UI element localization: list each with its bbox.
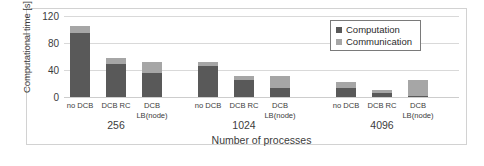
- x-axis-tick-label-line-1: no DCB: [195, 101, 222, 110]
- legend-item-computation[interactable]: Computation: [336, 24, 412, 35]
- stacked-bar[interactable]: [70, 26, 90, 97]
- bar-segment-computation: [142, 73, 162, 97]
- bar-segment-computation: [372, 93, 392, 97]
- x-axis-tick-label-line-1: DCB RC: [101, 101, 130, 110]
- bar-group-1024: no DCBDCB RCDCBLB(node)1024: [198, 16, 310, 97]
- bar-slot: DCBLB(node): [270, 16, 290, 97]
- x-axis-tick-label: DCB RC: [224, 101, 264, 111]
- y-axis-title-line-1: Computational: [21, 33, 32, 93]
- bar-slot: DCB RC: [106, 16, 126, 97]
- stacked-bar[interactable]: [234, 76, 254, 97]
- legend-swatch-icon: [336, 39, 342, 45]
- stacked-bar[interactable]: [142, 62, 162, 97]
- x-axis-tick-label: no DCB: [326, 101, 366, 111]
- stacked-bar[interactable]: [106, 58, 126, 97]
- bar-segment-computation: [106, 64, 126, 97]
- bar-slot: no DCB: [70, 16, 90, 97]
- x-axis-tick-label-line-1: DCB: [144, 101, 160, 110]
- bar-segment-communication: [70, 26, 90, 33]
- stacked-bar[interactable]: [198, 62, 218, 97]
- bar-segment-computation: [336, 88, 356, 97]
- x-axis-tick-label: no DCB: [188, 101, 228, 111]
- y-axis-tick-label-40: 40: [48, 65, 59, 76]
- x-axis-tick-label: DCBLB(node): [260, 101, 300, 120]
- stacked-bar[interactable]: [270, 76, 290, 97]
- legend-item-label: Computation: [346, 24, 400, 35]
- bar-slot: no DCB: [198, 16, 218, 97]
- stacked-bar[interactable]: [336, 82, 356, 97]
- bar-slot: DCB RC: [234, 16, 254, 97]
- bar-segment-computation: [408, 96, 428, 97]
- x-axis-tick-label: DCB RC: [96, 101, 136, 111]
- x-axis-title: Number of processes: [64, 134, 459, 146]
- bar-segment-communication: [408, 80, 428, 96]
- x-axis-tick-label-line-1: no DCB: [333, 101, 360, 110]
- chart-legend: ComputationCommunication: [330, 20, 421, 51]
- stacked-bar[interactable]: [372, 90, 392, 97]
- group-label-1024: 1024: [198, 119, 290, 131]
- x-axis-tick-label: DCB RC: [362, 101, 402, 111]
- bar-segment-computation: [70, 33, 90, 97]
- y-axis-tick-label-0: 0: [53, 92, 59, 103]
- x-axis-tick-label-line-1: DCB RC: [367, 101, 396, 110]
- bar-segment-communication: [270, 76, 290, 88]
- bar-segment-computation: [234, 80, 254, 97]
- bar-segment-computation: [198, 66, 218, 97]
- gridline-0: [64, 97, 459, 98]
- y-axis-tick-label-120: 120: [42, 11, 59, 22]
- chart-figure: Computational time [s] 04080120 no DCBDC…: [0, 0, 484, 166]
- bar-segment-computation: [270, 88, 290, 97]
- x-axis-tick-label-line-1: DCB: [410, 101, 426, 110]
- bar-slot: DCBLB(node): [142, 16, 162, 97]
- bar-segment-communication: [142, 62, 162, 73]
- legend-item-label: Communication: [346, 36, 412, 47]
- bar-group-256: no DCBDCB RCDCBLB(node)256: [70, 16, 182, 97]
- x-axis-tick-label-line-1: DCB RC: [229, 101, 258, 110]
- y-axis-title-line-2: time [s]: [21, 1, 32, 31]
- y-axis-title: Computational time [s]: [15, 0, 37, 95]
- stacked-bar[interactable]: [408, 80, 428, 97]
- x-axis-tick-label-line-1: no DCB: [67, 101, 94, 110]
- group-label-256: 256: [70, 119, 162, 131]
- group-label-4096: 4096: [336, 119, 428, 131]
- x-axis-tick-label: no DCB: [60, 101, 100, 111]
- legend-swatch-icon: [336, 27, 342, 33]
- legend-item-communication[interactable]: Communication: [336, 36, 412, 47]
- x-axis-tick-label: DCBLB(node): [132, 101, 172, 120]
- y-axis-tick-label-80: 80: [48, 38, 59, 49]
- x-axis-tick-label-line-1: DCB: [272, 101, 288, 110]
- x-axis-tick-label: DCBLB(node): [398, 101, 438, 120]
